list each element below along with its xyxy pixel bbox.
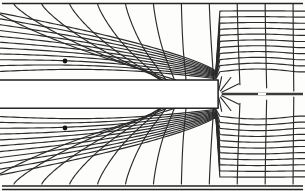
flux-net-figure [0, 0, 305, 191]
upper-source-dot [63, 59, 68, 64]
lower-source-dot [63, 126, 68, 131]
plate-outline [0, 80, 218, 108]
equipotential-line-upper [293, 4, 294, 91]
flux-net-canvas [0, 0, 305, 191]
equipotential-line-lower [293, 97, 294, 184]
